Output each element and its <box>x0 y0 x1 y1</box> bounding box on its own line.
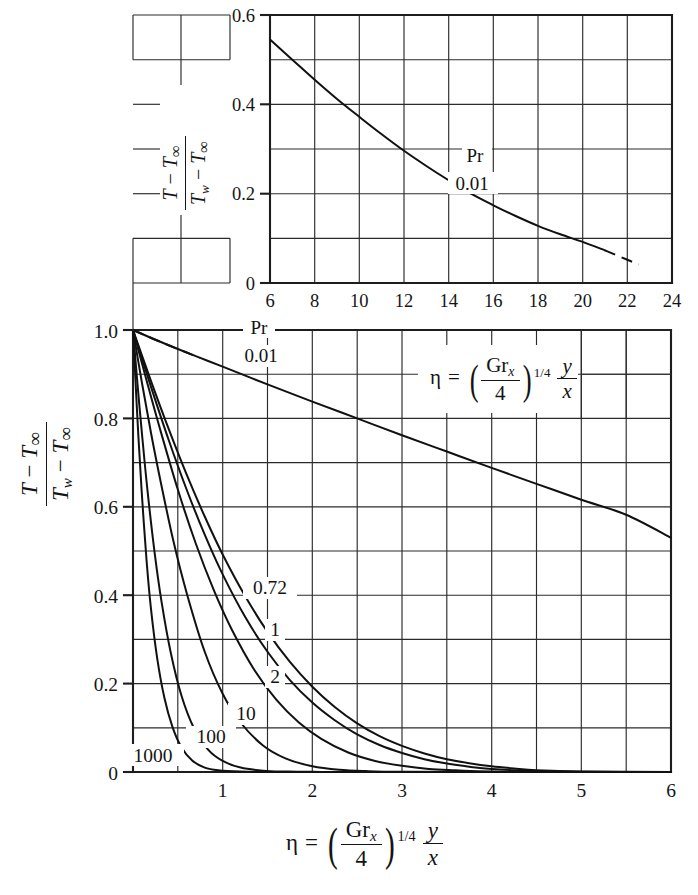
main-y-axis-label: T − T∞ Tw − T∞ <box>18 422 76 506</box>
eta-num-axis: Grx <box>341 818 382 845</box>
inset-xtick-20: 20 <box>573 291 592 311</box>
inset-ytick-0: 0 <box>246 274 255 294</box>
eta-equals-axis: = <box>305 830 318 855</box>
inset-xtick-6: 6 <box>265 291 274 311</box>
eta-den-axis: 4 <box>341 845 382 870</box>
main-chart: 1.0 0.8 0.6 0.4 0.2 0 1 2 3 4 5 6 Pr 0.0… <box>94 317 677 801</box>
eta-equals-inplot: = <box>448 365 460 389</box>
eta-y-inplot: y <box>557 356 576 379</box>
inset-pr-value-top: 0.01 <box>455 173 488 194</box>
inset-curve-pr-0-01-dashed-tail <box>605 250 639 264</box>
inset-y-axis-label: T − T∞ Tw − T∞ <box>160 136 212 210</box>
eta-y-axis: y <box>423 819 443 844</box>
main-ytick-0-8: 0.8 <box>94 409 118 430</box>
eta-symbol-inplot: η <box>430 365 441 389</box>
inset-ytick-0-4: 0.4 <box>232 95 255 115</box>
main-y-axis-denominator: Tw − T∞ <box>47 422 76 506</box>
main-ytick-0: 0 <box>108 763 118 784</box>
main-ytick-0-4: 0.4 <box>94 586 119 607</box>
eta-paren-open-inplot: ( <box>470 358 479 401</box>
main-pr-title: Pr <box>251 317 269 338</box>
main-xtick-5: 5 <box>576 780 586 801</box>
main-xtick-2: 2 <box>307 780 317 801</box>
eta-x-axis: x <box>423 844 443 869</box>
eta-num-inplot: Grx <box>481 355 519 381</box>
inset-xtick-24: 24 <box>663 291 682 311</box>
main-y-axis-fraction: T − T∞ Tw − T∞ <box>18 422 76 506</box>
inset-pr-title-top: Pr <box>467 145 485 166</box>
main-ytick-1-0: 1.0 <box>94 321 118 342</box>
curve-label-100: 100 <box>196 726 225 747</box>
figure-root: 0.6 0.4 0.2 0 6 8 10 12 14 16 18 20 22 2… <box>0 0 698 895</box>
eta-x-inplot: x <box>557 379 576 402</box>
inset-y-axis-fraction: T − T∞ Tw − T∞ <box>160 136 212 210</box>
eta-fraction-axis: Grx4 <box>341 818 382 870</box>
main-xtick-6: 6 <box>666 780 676 801</box>
eta-yx-inplot: yx <box>557 356 576 402</box>
inset-xtick-8: 8 <box>310 291 319 311</box>
main-y-tickmarks <box>124 330 133 772</box>
main-xtick-3: 3 <box>397 780 407 801</box>
eta-paren-close-inplot: ) <box>522 358 531 401</box>
inset-xtick-22: 22 <box>618 291 637 311</box>
chart-canvas: 0.6 0.4 0.2 0 6 8 10 12 14 16 18 20 22 2… <box>0 0 698 895</box>
main-ytick-0-2: 0.2 <box>94 674 118 695</box>
inset-ytick-0-6: 0.6 <box>232 6 255 26</box>
inset-y-axis-denominator: Tw − T∞ <box>186 136 212 210</box>
inset-xtick-14: 14 <box>439 291 458 311</box>
main-xtick-1: 1 <box>218 780 228 801</box>
eta-fraction-inplot: Grx4 <box>481 355 519 404</box>
eta-paren-close-axis: ) <box>385 821 395 868</box>
main-x-axis-label: η=(Grx4)1/4yx <box>286 818 443 870</box>
curve-label-1: 1 <box>270 619 280 640</box>
curve-label-0-72: 0.72 <box>253 577 287 598</box>
inset-xtick-16: 16 <box>484 291 503 311</box>
main-ytick-0-6: 0.6 <box>94 497 119 518</box>
curve-label-10: 10 <box>236 703 256 724</box>
inset-xtick-10: 10 <box>350 291 369 311</box>
main-xtick-4: 4 <box>487 780 497 801</box>
inset-ytick-0-2: 0.2 <box>232 184 255 204</box>
eta-formula-inplot: η=(Grx4)1/4yx <box>430 355 577 404</box>
eta-exponent-inplot: 1/4 <box>534 365 551 380</box>
inset-xtick-18: 18 <box>529 291 548 311</box>
eta-paren-open-axis: ( <box>328 821 338 868</box>
inset-grid-horizontal <box>270 15 672 238</box>
main-topright-frame-fragment <box>581 330 671 418</box>
main-pr-value: 0.01 <box>244 345 277 366</box>
inset-y-axis-numerator: T − T∞ <box>160 136 186 210</box>
curve-label-1000: 1000 <box>134 745 173 766</box>
inset-chart: 0.6 0.4 0.2 0 6 8 10 12 14 16 18 20 22 2… <box>232 6 681 311</box>
main-y-axis-numerator: T − T∞ <box>18 422 47 506</box>
curve-label-2: 2 <box>270 666 280 687</box>
eta-exponent-axis: 1/4 <box>397 828 415 844</box>
eta-den-inplot: 4 <box>481 381 519 404</box>
inset-y-tickmarks <box>261 15 270 283</box>
inset-curve-pr-0-01 <box>270 40 605 251</box>
eta-symbol-axis: η <box>286 830 298 855</box>
inset-xtick-12: 12 <box>395 291 414 311</box>
eta-yx-axis: yx <box>423 819 443 869</box>
